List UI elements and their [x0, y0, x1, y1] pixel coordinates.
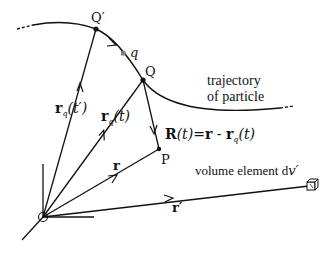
- charge-q-marker: [121, 51, 126, 56]
- trajectory-dashed-end: [280, 106, 294, 108]
- label-trajectory-line1: trajectory: [207, 73, 261, 88]
- label-P: P: [161, 152, 170, 167]
- label-trajectory-line2: of particle: [207, 89, 264, 104]
- label-R-equation: R(t)=r - rq(t): [165, 126, 255, 144]
- label-rq-t: rq(t): [101, 108, 130, 126]
- label-q: q: [130, 45, 138, 60]
- label-r-prime: r′: [172, 200, 183, 215]
- vector-R-line: [143, 80, 159, 149]
- vector-r-line: [43, 149, 159, 217]
- label-Q-prime: Q′: [91, 10, 105, 25]
- point-P: [157, 147, 161, 151]
- volume-element-cube-icon: [307, 179, 318, 190]
- label-rq-tprime: rq(t′): [55, 100, 87, 118]
- coordinate-axes: [22, 164, 94, 240]
- label-r: r: [113, 158, 120, 173]
- arrowheads: [77, 83, 173, 202]
- label-volume-element: volume element dv′: [195, 163, 298, 178]
- point-Q-prime: [93, 26, 98, 31]
- trajectory-dashed-start: [17, 25, 33, 29]
- label-Q: Q: [145, 64, 156, 79]
- vector-rq-tprime-line: [43, 29, 96, 217]
- electrodynamics-diagram: Q′ Q q P rq(t′) rq(t) r r′ R(t)=r - rq(t…: [0, 0, 323, 255]
- position-vectors: [43, 29, 309, 217]
